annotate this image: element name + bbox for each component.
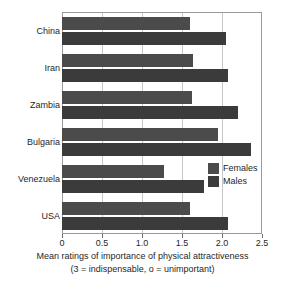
bar-usa-females bbox=[62, 202, 190, 215]
category-label-iran: Iran bbox=[2, 63, 60, 73]
category-axis: ChinaIranZambiaBulgariaVenezuelaUSA bbox=[0, 12, 60, 234]
bar-chart: ChinaIranZambiaBulgariaVenezuelaUSA 00.5… bbox=[0, 0, 285, 288]
x-tick-label: 0.5 bbox=[96, 238, 109, 249]
legend-label-males: Males bbox=[223, 176, 247, 186]
bars-layer bbox=[62, 12, 262, 234]
x-tick-label: 0 bbox=[59, 238, 64, 249]
x-tick-label: 1.0 bbox=[136, 238, 149, 249]
legend-item-males: Males bbox=[208, 175, 258, 187]
legend: Females Males bbox=[208, 162, 258, 187]
legend-label-females: Females bbox=[223, 163, 258, 173]
bar-iran-males bbox=[62, 69, 228, 82]
legend-item-females: Females bbox=[208, 162, 258, 174]
category-label-usa: USA bbox=[2, 211, 60, 221]
category-label-china: China bbox=[2, 26, 60, 36]
bar-zambia-males bbox=[62, 106, 238, 119]
x-tick-label: 2.0 bbox=[216, 238, 229, 249]
legend-swatch-males-icon bbox=[208, 176, 219, 187]
category-label-bulgaria: Bulgaria bbox=[2, 137, 60, 147]
bar-venezuela-males bbox=[62, 180, 204, 193]
bar-zambia-females bbox=[62, 91, 192, 104]
x-tick-label: 2.5 bbox=[256, 238, 269, 249]
bar-china-males bbox=[62, 32, 226, 45]
bar-iran-females bbox=[62, 54, 193, 67]
category-label-venezuela: Venezuela bbox=[2, 174, 60, 184]
bar-bulgaria-males bbox=[62, 143, 251, 156]
bar-china-females bbox=[62, 17, 190, 30]
legend-swatch-females-icon bbox=[208, 163, 219, 174]
bar-venezuela-females bbox=[62, 165, 164, 178]
x-axis-label-sub: (3 = indispensable, o = unimportant) bbox=[0, 264, 285, 275]
bar-usa-males bbox=[62, 217, 228, 230]
x-axis-label: Mean ratings of importance of physical a… bbox=[0, 251, 285, 262]
category-label-zambia: Zambia bbox=[2, 100, 60, 110]
bar-bulgaria-females bbox=[62, 128, 218, 141]
x-tick-label: 1.5 bbox=[176, 238, 189, 249]
